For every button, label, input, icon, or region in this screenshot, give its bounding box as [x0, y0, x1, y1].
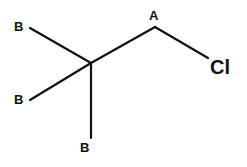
- label-b-middle: B: [14, 92, 23, 107]
- molecule-diagram: B B B A Cl: [0, 0, 247, 167]
- label-cl: Cl: [210, 56, 230, 78]
- bond-a-cl: [155, 27, 208, 58]
- bond-c-a: [91, 27, 155, 63]
- label-b-top: B: [14, 19, 23, 34]
- bonds: [30, 27, 208, 138]
- label-b-bottom: B: [80, 140, 89, 155]
- label-a: A: [149, 8, 159, 23]
- bond-b1-c: [30, 28, 91, 63]
- bond-b2-c: [30, 63, 91, 100]
